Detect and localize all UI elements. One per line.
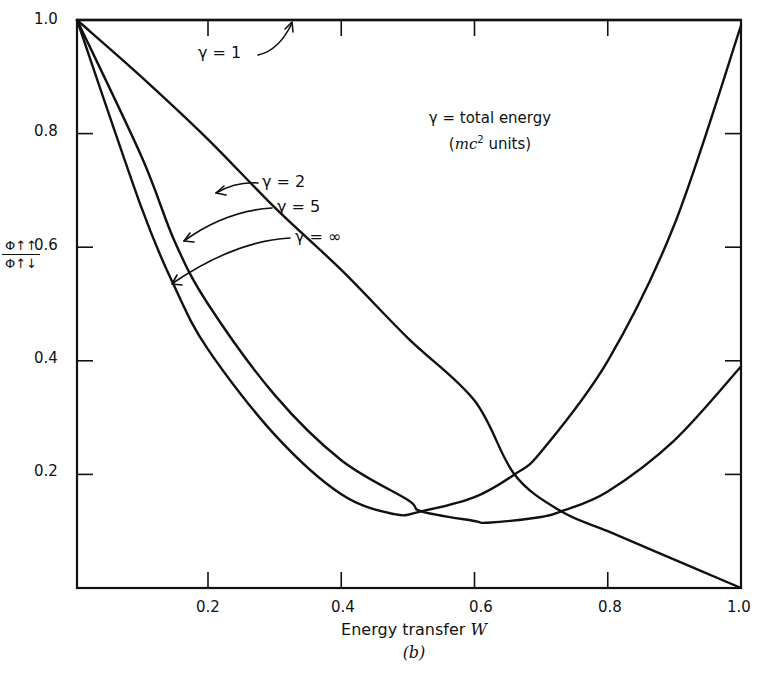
y-tick-0.4: 0.4 xyxy=(34,349,58,367)
x-tick-1.0: 1.0 xyxy=(727,598,751,616)
y-axis-denominator: Φ↑↓ xyxy=(2,255,40,271)
panel-label: (b) xyxy=(35,643,758,662)
x-tick-0.6: 0.6 xyxy=(469,598,493,616)
y-axis-label: Φ↑↑ Φ↑↓ xyxy=(2,238,40,271)
label-gamma-2: γ = 2 xyxy=(262,172,305,191)
y-tick-1.0: 1.0 xyxy=(34,10,58,28)
x-tick-0.8: 0.8 xyxy=(598,598,622,616)
x-axis-label: Energy transfer W xyxy=(35,620,758,639)
note-units: units) xyxy=(484,135,532,153)
curve-gamma-2 xyxy=(77,20,741,588)
arrowhead-gamma-1 xyxy=(285,22,293,32)
curve-gamma-inf xyxy=(77,20,741,515)
gamma-definition-note: γ = total energy (mc2 units) xyxy=(410,107,570,155)
x-tick-0.2: 0.2 xyxy=(196,598,220,616)
label-gamma-1: γ = 1 xyxy=(198,43,241,62)
x-axis-label-text: Energy transfer xyxy=(341,620,470,639)
label-gamma-inf: γ = ∞ xyxy=(295,227,341,246)
note-line-2: (mc2 units) xyxy=(410,129,570,155)
plot-frame xyxy=(77,20,741,588)
chart-canvas xyxy=(0,0,758,673)
label-gamma-5: γ = 5 xyxy=(277,197,320,216)
curves xyxy=(77,20,741,588)
note-line-1: γ = total energy xyxy=(410,107,570,129)
x-axis-label-var: W xyxy=(470,620,486,639)
y-axis-numerator: Φ↑↑ xyxy=(2,238,40,255)
y-tick-0.2: 0.2 xyxy=(34,462,58,480)
note-mc: mc xyxy=(455,135,478,153)
curve-gamma-5 xyxy=(77,20,741,523)
y-tick-0.8: 0.8 xyxy=(34,122,58,140)
axis-ticks xyxy=(77,20,741,588)
x-tick-0.4: 0.4 xyxy=(331,598,355,616)
arrow-gamma-5 xyxy=(184,208,272,241)
